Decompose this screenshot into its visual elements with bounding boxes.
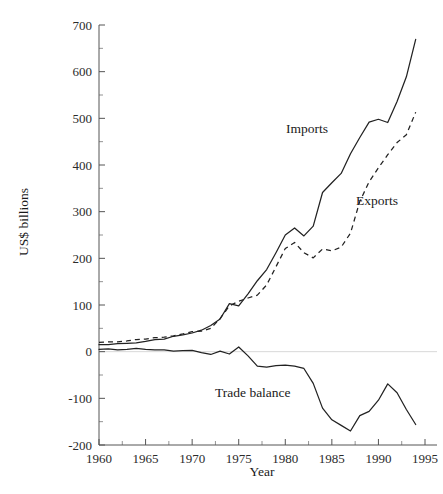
x-tick-label: 1990 bbox=[365, 451, 391, 466]
x-tick-label: 1975 bbox=[226, 451, 252, 466]
y-tick-label: 0 bbox=[86, 344, 93, 359]
y-tick-label: 200 bbox=[73, 251, 93, 266]
y-tick-label: 100 bbox=[73, 298, 93, 313]
y-tick-label: 500 bbox=[73, 111, 93, 126]
y-tick-label: 400 bbox=[73, 158, 93, 173]
x-tick-label: 1995 bbox=[412, 451, 438, 466]
y-tick-label: -100 bbox=[68, 391, 92, 406]
series-label-exports: Exports bbox=[356, 193, 398, 208]
y-tick-label: 700 bbox=[73, 18, 93, 33]
x-axis-minor-ticks bbox=[122, 441, 401, 445]
x-axis-title: Year bbox=[250, 464, 275, 479]
x-tick-label: 1980 bbox=[272, 451, 298, 466]
axis-spines bbox=[99, 25, 437, 445]
y-tick-label: 300 bbox=[73, 204, 93, 219]
y-axis-tick-labels: -200-1000100200300400500600700 bbox=[68, 18, 92, 453]
y-tick-label: 600 bbox=[73, 64, 93, 79]
trade-line-chart: -200-1000100200300400500600700 196019651… bbox=[0, 0, 443, 494]
chart-container: -200-1000100200300400500600700 196019651… bbox=[0, 0, 443, 494]
series-label-imports: Imports bbox=[286, 121, 328, 136]
series-label-trade-balance: Trade balance bbox=[215, 385, 291, 400]
x-tick-label: 1970 bbox=[179, 451, 205, 466]
x-tick-label: 1965 bbox=[133, 451, 159, 466]
x-tick-label: 1960 bbox=[86, 451, 112, 466]
series-annotations: ImportsExportsTrade balance bbox=[215, 121, 398, 400]
y-axis-title: US$ billions bbox=[16, 188, 31, 256]
series-line-exports bbox=[99, 112, 416, 342]
data-series-curves bbox=[99, 39, 416, 431]
x-tick-label: 1985 bbox=[319, 451, 345, 466]
y-axis-minor-ticks bbox=[99, 48, 103, 421]
